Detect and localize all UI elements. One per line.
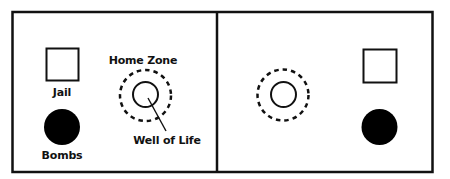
well-of-life-circle-right <box>271 82 296 107</box>
bombs-circle-right <box>362 109 398 145</box>
field-boundary <box>13 12 433 172</box>
bombs-label: Bombs <box>42 150 83 162</box>
home-zone-dashed-circle-right <box>258 70 309 121</box>
well-of-life-circle-left <box>133 82 158 107</box>
jail-square-left <box>47 49 79 81</box>
well-of-life-label: Well of Life <box>133 135 200 147</box>
home-zone-label: Home Zone <box>109 55 178 67</box>
home-zone-dashed-circle-left <box>120 70 171 121</box>
jail-square-right <box>364 50 397 83</box>
bombs-circle-left <box>44 109 80 145</box>
jail-label: Jail <box>53 87 71 99</box>
